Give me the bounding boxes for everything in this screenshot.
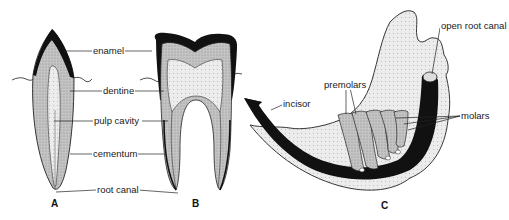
label-cementum: cementum <box>92 148 138 159</box>
tooth-a-drawing <box>12 29 92 190</box>
panel-label-a: A <box>51 198 58 209</box>
jaw-c-drawing <box>244 11 450 190</box>
label-root-canal: root canal <box>96 184 140 195</box>
label-premolars: premolars <box>323 79 367 90</box>
label-pulp-cavity: pulp cavity <box>93 115 140 126</box>
label-molars: molars <box>460 110 491 121</box>
label-incisor: incisor <box>282 98 311 109</box>
tooth-b-drawing <box>140 33 242 190</box>
label-open-root-canal: open root canal <box>440 20 508 31</box>
tooth-anatomy-figure: enamel dentine pulp cavity cementum root… <box>0 0 509 220</box>
figure-drawing <box>0 0 509 220</box>
panel-label-b: B <box>192 198 199 209</box>
label-enamel: enamel <box>92 45 125 56</box>
panel-label-c: C <box>381 200 388 211</box>
label-dentine: dentine <box>102 85 135 96</box>
